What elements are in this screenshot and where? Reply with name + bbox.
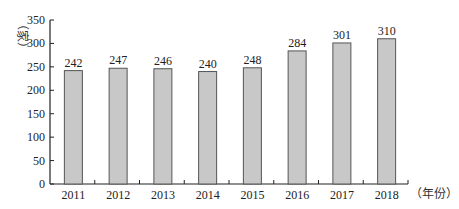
bar-value-label: 301 [333, 28, 351, 42]
x-tick-label: 2015 [240, 188, 264, 202]
y-tick-label: 200 [27, 83, 45, 97]
bar-chart: 050100150200250300350 242201124720122462… [0, 0, 459, 209]
bar-value-label: 240 [199, 57, 217, 71]
bar-value-label: 284 [288, 36, 306, 50]
bar-value-label: 310 [378, 24, 396, 38]
bar-2013 [154, 69, 172, 184]
x-tick-label: 2013 [151, 188, 175, 202]
x-axis-label: （年份） [410, 187, 458, 201]
x-tick-label: 2014 [196, 188, 220, 202]
bar-2014 [199, 72, 217, 184]
bar-2017 [333, 43, 351, 184]
x-tick-label: 2017 [330, 188, 354, 202]
y-tick-label: 0 [39, 177, 45, 191]
y-tick-label: 250 [27, 60, 45, 74]
bar-2016 [288, 51, 306, 184]
x-tick-label: 2016 [285, 188, 309, 202]
bar-value-label: 242 [64, 56, 82, 70]
x-tick-label: 2012 [106, 188, 130, 202]
bars: 2422011247201224620132402014248201528420… [62, 24, 399, 202]
y-tick-label: 100 [27, 130, 45, 144]
y-axis-label: （家） [15, 18, 30, 54]
bar-2012 [109, 68, 127, 184]
bar-value-label: 247 [109, 53, 127, 67]
y-axis: 050100150200250300350 [27, 13, 54, 191]
bar-value-label: 246 [154, 54, 172, 68]
x-tick-label: 2011 [62, 188, 86, 202]
bar-value-label: 248 [243, 53, 261, 67]
y-tick-label: 50 [33, 154, 45, 168]
bar-2011 [64, 71, 82, 184]
x-axis [50, 180, 408, 184]
bar-2018 [378, 39, 396, 184]
y-tick-label: 150 [27, 107, 45, 121]
bar-2015 [243, 68, 261, 184]
x-tick-label: 2018 [375, 188, 399, 202]
